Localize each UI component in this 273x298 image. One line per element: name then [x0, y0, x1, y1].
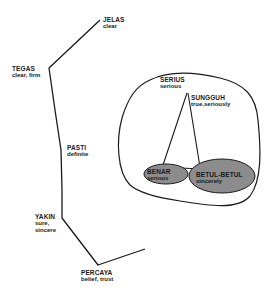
node-gloss: clear: [103, 23, 124, 30]
node-percaya: PERCAYA belief, trust: [81, 269, 113, 283]
node-gloss: serious: [160, 83, 185, 90]
node-word: PASTI: [67, 144, 88, 151]
node-gloss: serious: [147, 175, 171, 182]
node-gloss: definite: [67, 151, 88, 158]
node-word: JELAS: [103, 16, 124, 23]
link-serius-benar: [163, 93, 187, 165]
node-gloss-line-2: sincere: [35, 227, 56, 234]
node-serius: SERIUS serious: [160, 76, 185, 90]
node-word: SERIUS: [160, 76, 185, 83]
node-word: YAKIN: [35, 213, 56, 220]
semantic-network-diagram: JELAS clear TEGAS clear, firm PASTI defi…: [0, 0, 273, 298]
node-gloss: clear, firm: [12, 72, 40, 79]
node-gloss: sincerely: [196, 178, 243, 185]
node-benar: BENAR serious: [147, 168, 171, 182]
node-pasti: PASTI definite: [67, 144, 88, 158]
node-gloss: belief, trust: [81, 276, 113, 283]
semantic-chain-line: [49, 20, 145, 265]
diagram-lines: [0, 0, 273, 298]
node-word: BETUL-BETUL: [196, 171, 243, 178]
node-word: TEGAS: [12, 65, 40, 72]
node-gloss-line-1: sure,: [35, 220, 56, 227]
node-gloss: true,seriously: [191, 101, 230, 108]
node-word: BENAR: [147, 168, 171, 175]
node-word: PERCAYA: [81, 269, 113, 276]
node-betul-betul: BETUL-BETUL sincerely: [196, 171, 243, 185]
node-word: SUNGGUH: [191, 94, 230, 101]
node-jelas: JELAS clear: [103, 16, 124, 30]
node-sungguh: SUNGGUH true,seriously: [191, 94, 230, 108]
node-yakin: YAKIN sure, sincere: [35, 213, 56, 234]
node-tegas: TEGAS clear, firm: [12, 65, 40, 79]
